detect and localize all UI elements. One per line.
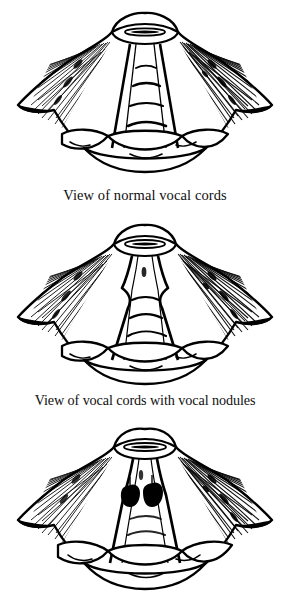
glottis-slit xyxy=(131,31,159,34)
panel-normal-vocal-cords xyxy=(0,2,290,182)
caption-vocal-nodules: View of vocal cords with vocal nodules xyxy=(0,393,290,408)
larynx-drawing-polyps xyxy=(0,423,290,597)
midline-marking xyxy=(142,267,147,277)
glottis-slit xyxy=(132,243,158,246)
illustration-page: View of normal vocal cords xyxy=(0,0,290,597)
base-lobes xyxy=(58,542,232,589)
caption-normal-vocal-cords: View of normal vocal cords xyxy=(0,188,290,203)
larynx-drawing-nodules xyxy=(0,218,290,390)
glottis-slit xyxy=(131,446,159,449)
midline-marking xyxy=(139,470,143,480)
panel-vocal-polyps xyxy=(0,423,290,597)
panel-vocal-nodules xyxy=(0,218,290,390)
larynx-drawing-normal xyxy=(0,2,290,182)
